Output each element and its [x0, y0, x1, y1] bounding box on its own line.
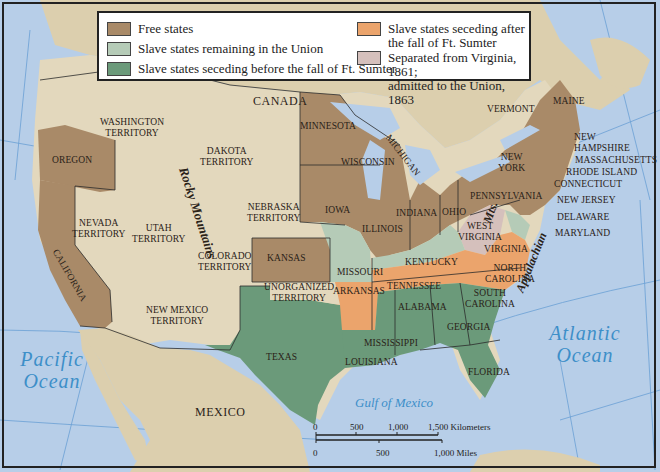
label-vermont: VERMONT [487, 104, 535, 115]
scale-mi-0: 0 [313, 448, 318, 458]
label-mexico: MEXICO [195, 405, 245, 420]
label-nebraska-territory: NEBRASKATERRITORY [247, 202, 301, 224]
label-maine: MAINE [553, 96, 585, 107]
label-gulf-of-mexico: Gulf of Mexico [355, 395, 433, 411]
legend-label: Slave states remaining in the Union [138, 42, 323, 56]
legend-item-west-virginia: Separated from Virginia, 1861;admitted t… [357, 51, 529, 107]
label-kentucky: KENTUCKY [405, 257, 458, 268]
label-new-jersey: NEW JERSEY [557, 195, 616, 206]
scale-km-0: 0 [313, 422, 318, 432]
label-arkansas: ARKANSAS [333, 286, 385, 297]
label-washington-territory: WASHINGTONTERRITORY [100, 117, 164, 139]
legend-label: Separated from Virginia, 1861;admitted t… [388, 51, 529, 107]
label-south-carolina: SOUTHCAROLINA [465, 288, 515, 310]
scale-mi-500: 500 [376, 448, 390, 458]
swatch-free [107, 22, 131, 36]
label-oregon: OREGON [52, 155, 92, 166]
label-massachusetts: MASSACHUSETTS [575, 155, 657, 166]
legend-item-free: Free states [107, 22, 193, 36]
legend-label: Slave states seceding afterthe fall of F… [388, 22, 525, 50]
scale-km-500: 500 [350, 422, 364, 432]
label-canada: CANADA [253, 94, 307, 109]
label-louisiana: LOUISIANA [345, 357, 398, 368]
label-delaware: DELAWARE [557, 212, 609, 223]
legend-item-slave-union: Slave states remaining in the Union [107, 42, 323, 56]
label-west-virginia: WESTVIRGINIA [458, 221, 502, 243]
scale-mi-1000: 1,000 Miles [434, 448, 477, 458]
label-maryland: MARYLAND [555, 228, 610, 239]
swatch-seceded-after [357, 22, 381, 36]
swatch-west-virginia [357, 51, 381, 65]
label-connecticut: CONNECTICUT [554, 179, 622, 190]
label-pennsylvania: PENNSYLVANIA [470, 191, 542, 202]
label-mississippi: MISSISSIPPI [364, 338, 418, 349]
label-north-carolina: NORTHCAROLINA [485, 263, 535, 285]
label-virginia: VIRGINIA [484, 244, 528, 255]
label-new-hampshire: NEWHAMPSHIRE [574, 132, 630, 154]
label-missouri: MISSOURI [337, 267, 383, 278]
label-atlantic-ocean: AtlanticOcean [545, 322, 625, 366]
legend: Free states Slave states remaining in th… [97, 11, 531, 81]
label-colorado-territory: COLORADOTERRITORY [198, 251, 252, 273]
label-illinois: ILLINOIS [362, 224, 403, 235]
label-rhode-island: RHODE ISLAND [566, 167, 637, 178]
legend-item-seceded-before: Slave states seceding before the fall of… [107, 62, 396, 76]
label-wisconsin: WISCONSIN [341, 157, 395, 168]
label-nevada-territory: NEVADATERRITORY [72, 218, 126, 240]
label-indiana: INDIANA [396, 208, 437, 219]
label-texas: TEXAS [266, 352, 297, 363]
label-ohio: OHIO [442, 207, 466, 218]
label-alabama: ALABAMA [398, 302, 447, 313]
label-georgia: GEORGIA [447, 322, 490, 333]
swatch-seceded-before [107, 62, 131, 76]
legend-label: Free states [138, 22, 193, 36]
label-unorganized-territory: UNORGANIZEDTERRITORY [264, 282, 334, 304]
scale-bar-lines [312, 432, 452, 446]
label-iowa: IOWA [325, 205, 350, 216]
label-new-mexico-territory: NEW MEXICOTERRITORY [146, 305, 208, 327]
scale-km-1000: 1,000 [388, 422, 408, 432]
label-dakota-territory: DAKOTATERRITORY [200, 146, 254, 168]
label-florida: FLORIDA [468, 367, 510, 378]
label-utah-territory: UTAHTERRITORY [132, 223, 186, 245]
label-new-york: NEWYORK [498, 152, 525, 174]
label-pacific-ocean: PacificOcean [12, 348, 92, 392]
label-kansas: KANSAS [267, 253, 306, 264]
label-tennessee: TENNESSEE [387, 281, 441, 292]
label-minnesota: MINNESOTA [300, 121, 356, 132]
scale-km-1500: 1,500 Kilometers [428, 422, 491, 432]
swatch-slave-union [107, 42, 131, 56]
legend-item-seceded-after: Slave states seceding afterthe fall of F… [357, 22, 525, 50]
